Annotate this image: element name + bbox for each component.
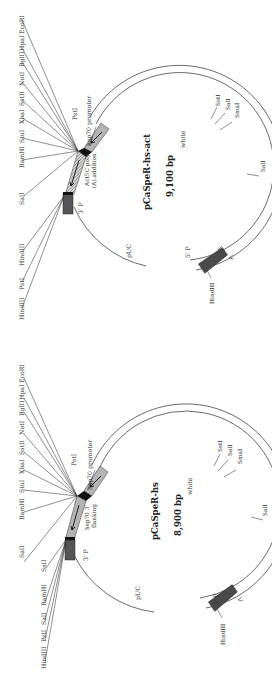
five-p-label: 5' P [184,246,191,258]
site-label: PstI [18,277,25,290]
site-label: XbaI [18,109,25,124]
site-label: HindIII [18,243,25,266]
five-p-arrow-2 [238,597,243,601]
site-label: HindIII [18,297,25,320]
three-p-element [63,194,73,214]
site-label: BamHI [18,146,25,168]
site-label: SalI [40,612,47,625]
white-label: white [179,130,186,148]
white-site-label: SstI [217,440,223,452]
tick-sali-2 [251,517,263,520]
puc-backbone-arc [74,555,154,612]
mcs-labels: EcoRI HpaI BglII NotI SstII XbaI StuI Ba… [18,364,47,669]
site-label: PstI [40,629,47,642]
insert-label-line1: Act5C poly [84,153,91,187]
site-label: BamHI [40,584,47,606]
site-label: BglII [18,400,26,416]
three-p-label: 3' P [77,202,84,214]
tick-sali [215,113,225,124]
white-band-inner [96,73,272,260]
site-label: EcoRI [18,15,25,34]
tick-ssti [214,454,220,466]
plasmid-figure: EcoRI HpaI BglII NotI SstII XbaI StuI Ba… [0,0,272,677]
white-sall-label: SalI [262,504,268,516]
site-label: BamHI [18,498,25,520]
site-label: SstI [40,559,47,572]
white-label: white [186,477,193,495]
tick-sali [218,460,228,471]
site-label: XbaI [18,459,25,474]
site-label: HindIII [40,646,47,669]
white-site-label: SalI [227,444,233,456]
site-label: HpaI [18,35,26,51]
puc-backbone-arc [74,207,146,266]
psti-label: PstI [70,453,77,466]
white-site-label: SmaI [234,103,240,118]
tick-hindiii-bottom [216,607,222,618]
tick-smai [220,122,232,130]
promoter-label: hsp70 promoter [85,96,93,146]
site-label: StuI [18,129,25,143]
white-site-label: SalI [225,98,231,110]
site-label: SalI [18,192,25,205]
tick-ssti [211,107,217,119]
plasmid-name: pCaSpeR-hs-act [142,134,152,210]
site-label: HpaI [18,384,26,400]
tick-sali-2 [247,174,259,176]
bottom-hindiii-label: HindIII [209,283,215,304]
tick-smai [224,470,236,477]
mcs-leaders [22,20,78,308]
site-label: NotI [18,420,25,435]
site-label: EcoRI [18,364,25,383]
three-p-label: 3' P [82,549,89,561]
three-p-black-band [63,192,73,195]
white-site-label: SstI [215,94,221,106]
plasmid-hs: EcoRI HpaI BglII NotI SstII XbaI StuI Ba… [18,364,272,669]
white-sall-label: SalI [260,160,266,172]
five-p-label: 5' P [212,593,219,605]
three-p-element [65,540,75,560]
hsp70-3-flanking-box [66,496,86,540]
plasmid-act: EcoRI HpaI BglII NotI SstII XbaI StuI Ba… [18,15,272,320]
plasmid-name: pCaSpeR-hs [150,482,160,540]
mcs-leaders [24,378,77,662]
site-label: NotI [18,71,25,86]
insert-label-line2: flanking [91,504,98,528]
puc-label: pUC [134,586,142,600]
plasmid-size: 9,100 bp [165,155,176,197]
site-label: SstII [18,440,25,455]
site-label: BglII [18,51,26,67]
mcs-labels: EcoRI HpaI BglII NotI SstII XbaI StuI Ba… [18,15,26,320]
promoter-label: hsp70 promoter [86,440,94,490]
site-label: SalI [18,545,25,558]
act5c-insert-box [66,151,86,194]
insert-label-line1: hsp70 3' [84,505,91,530]
puc-label: pUC [125,244,133,258]
insert-label-line2: (A) addition [91,153,97,188]
site-label: StuI [18,479,25,493]
psti-label: PstI [71,107,78,120]
white-band-inner [98,411,272,598]
three-p-black-band [65,537,75,540]
bottom-hindiii-label: HindIII [220,624,226,645]
site-label: SstII [18,91,25,106]
plasmid-size: 8,900 bp [173,494,184,536]
white-site-label: SmaI [237,449,243,464]
